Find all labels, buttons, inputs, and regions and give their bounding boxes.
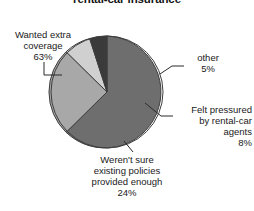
label-felt-pressured: Felt pressured by rental-car agents 8% [160,104,252,148]
label-other: other 5% [186,52,230,74]
label-wanted-percent: 63% [2,51,84,62]
label-pressured-line1: Felt pressured [191,104,252,115]
label-other-line1: other [197,52,219,63]
label-pressured-percent: 8% [160,137,252,148]
pie-chart-figure: rental-car insurance Wanted extra covera… [0,0,254,211]
label-wanted-line2: coverage [23,40,62,51]
label-pressured-line2: by rental-car [199,115,252,126]
leader-line-other [160,66,184,74]
label-wanted-extra-coverage: Wanted extra coverage 63% [2,29,84,62]
label-unsure-line3: provided enough [92,176,163,187]
label-unsure-line2: existing policies [94,165,161,176]
label-wanted-line1: Wanted extra [15,29,71,40]
label-other-percent: 5% [186,63,230,74]
label-unsure-percent: 24% [66,187,188,198]
label-werent-sure: Weren't sure existing policies provided … [66,154,188,198]
label-pressured-line3: agents [223,126,252,137]
label-unsure-line1: Weren't sure [100,154,153,165]
